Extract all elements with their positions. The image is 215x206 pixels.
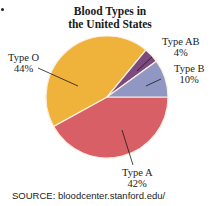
pie-chart xyxy=(0,0,215,206)
source-note: SOURCE: bloodcenter.stanford.edu/ xyxy=(12,190,165,201)
label-type-a: Type A 42% xyxy=(122,167,152,189)
label-type-o: Type O 44% xyxy=(8,52,39,74)
pie-slices xyxy=(46,36,168,158)
label-type-ab: Type AB 4% xyxy=(162,36,199,58)
label-type-b: Type B 10% xyxy=(174,63,204,85)
